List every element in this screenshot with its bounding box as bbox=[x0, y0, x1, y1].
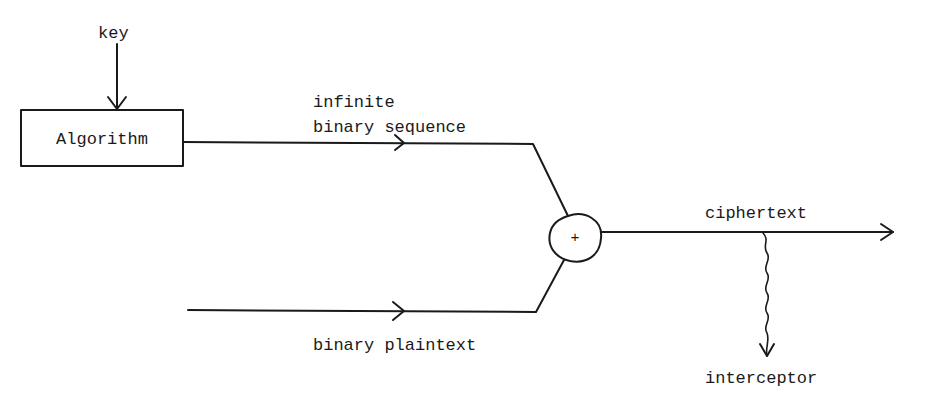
stream-cipher-diagram: key Algorithm infinite binary sequence +… bbox=[0, 0, 944, 405]
algorithm-label: Algorithm bbox=[56, 130, 148, 149]
plaintext-label: binary plaintext bbox=[313, 336, 476, 355]
interceptor-label: interceptor bbox=[705, 369, 817, 388]
key-arrow bbox=[108, 44, 126, 109]
keystream-label-line2: binary sequence bbox=[313, 118, 466, 137]
plaintext-arrow bbox=[188, 260, 564, 320]
ciphertext-label: ciphertext bbox=[705, 204, 807, 223]
key-label: key bbox=[98, 24, 129, 43]
keystream-label-line1: infinite bbox=[313, 93, 395, 112]
keystream-arrow bbox=[183, 135, 568, 216]
algorithm-box: Algorithm bbox=[21, 110, 183, 166]
xor-combiner: + bbox=[549, 214, 601, 261]
ciphertext-arrow bbox=[601, 224, 893, 240]
plus-symbol: + bbox=[570, 230, 579, 247]
interception-wavy-arrow bbox=[760, 233, 774, 356]
